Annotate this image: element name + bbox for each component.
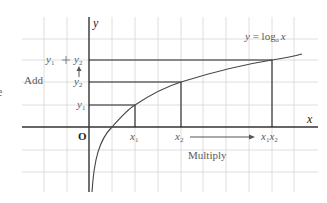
origin-label: O — [78, 131, 87, 142]
x1-label: x1 — [130, 131, 138, 144]
add-annotation: Add — [24, 75, 43, 86]
x2-label: x2 — [175, 131, 183, 144]
multiply-annotation: Multiply — [188, 150, 227, 161]
y2-label: y2 — [74, 76, 82, 89]
y1-plus-y2-second-label: y2 — [74, 54, 82, 67]
y-axis-label: y — [93, 17, 98, 29]
equation-label: y = logax — [245, 31, 286, 44]
x-axis-label: x — [307, 113, 312, 125]
cropped-edge-glyph: e — [0, 86, 2, 98]
x1x2-label: x1x2 — [261, 131, 278, 144]
guide-lines — [89, 60, 272, 127]
log-diagram: e y = logax y x O y1 y2 y2 y1 x1 x2 x1x2… — [0, 0, 327, 203]
multiply-arrow — [190, 135, 255, 140]
y1-plus-y2-label: y1 — [46, 54, 54, 67]
log-curve — [92, 54, 302, 192]
plus-sign — [62, 56, 70, 64]
y1-label: y1 — [77, 99, 85, 112]
